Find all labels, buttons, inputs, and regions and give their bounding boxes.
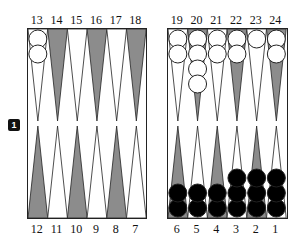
black-checker[interactable] <box>267 169 285 187</box>
point-14[interactable] <box>48 29 68 121</box>
doubling-cube[interactable]: 1 <box>8 119 20 131</box>
black-checker[interactable] <box>169 184 187 202</box>
point-7[interactable] <box>127 126 147 218</box>
point-15[interactable] <box>67 29 87 121</box>
point-11[interactable] <box>48 126 68 218</box>
point-9[interactable] <box>87 126 107 218</box>
point-label-top: 19 <box>167 14 187 26</box>
point-label-top: 23 <box>246 14 266 26</box>
point-label-bottom: 8 <box>106 223 126 235</box>
point-8[interactable] <box>107 126 127 218</box>
white-checker[interactable] <box>169 45 187 63</box>
white-checker[interactable] <box>29 45 47 63</box>
point-label-top: 15 <box>66 14 86 26</box>
point-label-top: 17 <box>106 14 126 26</box>
black-checker[interactable] <box>248 169 266 187</box>
point-label-bottom: 4 <box>206 223 226 235</box>
point-label-top: 14 <box>47 14 67 26</box>
left-board-points <box>28 29 146 218</box>
point-12[interactable] <box>28 126 48 218</box>
point-label-bottom: 11 <box>47 223 67 235</box>
point-label-top: 13 <box>27 14 47 26</box>
point-label-bottom: 6 <box>167 223 187 235</box>
white-checker[interactable] <box>248 30 266 48</box>
right-board <box>167 28 288 219</box>
left-board <box>27 28 147 219</box>
point-label-top: 20 <box>187 14 207 26</box>
point-label-bottom: 9 <box>86 223 106 235</box>
white-checker[interactable] <box>228 45 246 63</box>
point-label-bottom: 3 <box>226 223 246 235</box>
white-checker[interactable] <box>189 75 207 93</box>
point-label-top: 16 <box>86 14 106 26</box>
white-checker[interactable] <box>208 45 226 63</box>
right-board-points <box>168 29 287 218</box>
point-17[interactable] <box>107 29 127 121</box>
point-label-bottom: 2 <box>246 223 266 235</box>
point-label-bottom: 10 <box>66 223 86 235</box>
point-label-top: 21 <box>206 14 226 26</box>
black-checker[interactable] <box>189 184 207 202</box>
point-label-bottom: 5 <box>187 223 207 235</box>
point-label-bottom: 12 <box>27 223 47 235</box>
point-label-top: 24 <box>265 14 285 26</box>
black-checker[interactable] <box>208 184 226 202</box>
point-18[interactable] <box>127 29 147 121</box>
white-checker[interactable] <box>267 45 285 63</box>
point-label-top: 18 <box>125 14 145 26</box>
point-label-bottom: 1 <box>265 223 285 235</box>
point-label-top: 22 <box>226 14 246 26</box>
point-10[interactable] <box>67 126 87 218</box>
point-16[interactable] <box>87 29 107 121</box>
black-checker[interactable] <box>228 169 246 187</box>
point-label-bottom: 7 <box>125 223 145 235</box>
